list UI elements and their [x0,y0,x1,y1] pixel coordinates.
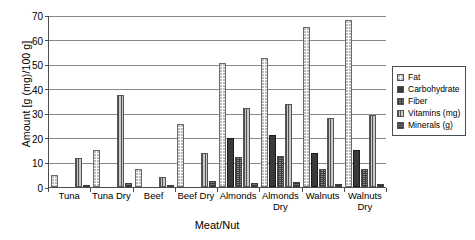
bar-min [251,183,258,187]
y-tick-label-70: 70 [32,11,43,22]
x-label-walnuts-dry: WalnutsDry [344,190,386,212]
bar-min [125,183,132,187]
plot-area: 010203040506070 [48,16,386,188]
bar-min [293,182,300,187]
plot-inner: 010203040506070 [49,16,386,187]
bar-fat [303,27,310,187]
bar-vit [201,153,208,187]
bars [218,16,260,187]
bar-vit [117,95,124,187]
legend-swatch-min [397,122,404,129]
bar-vit [75,158,82,187]
bar-fat [345,20,352,187]
legend-swatch-fat [397,74,404,81]
x-tick-mark-8 [386,188,387,192]
y-axis-title: Amount [g (mg)/100 g] [20,4,32,184]
bars [175,16,217,187]
y-tick-label-60: 60 [32,35,43,46]
bar-min [209,181,216,187]
x-label-walnuts: Walnuts [302,190,344,212]
bar-group-tuna [49,16,91,187]
bar-fiber [277,156,284,187]
bar-group-tuna-dry [91,16,133,187]
bar-fiber [235,157,242,187]
x-label-tuna: Tuna [48,190,90,212]
bar-group-walnuts [302,16,344,187]
bar-group-beef [133,16,175,187]
bar-carb [269,135,276,187]
y-tick-label-40: 40 [32,84,43,95]
x-label-almonds: Almonds [217,190,259,212]
legend-label-vit: Vitamins (mg) [408,108,460,118]
bar-vit [327,118,334,187]
legend-item-carb: Carbohydrate [397,83,460,95]
y-tick-label-30: 30 [32,109,43,120]
bar-group-beef-dry [175,16,217,187]
y-tick-label-50: 50 [32,60,43,71]
bar-carb [311,153,318,187]
legend-swatch-vit [397,110,404,117]
x-label-almonds-dry: AlmondsDry [259,190,301,212]
bars [302,16,344,187]
legend-label-fiber: Fiber [408,96,427,106]
legend-label-min: Minerals (g) [408,120,453,130]
legend-label-fat: Fat [408,72,420,82]
bar-min [335,184,342,187]
legend-item-fat: Fat [397,71,460,83]
bar-fat [51,175,58,187]
x-label-tuna-dry: Tuna Dry [90,190,132,212]
bar-min [377,184,384,187]
bar-fat [177,124,184,187]
bar-fiber [361,169,368,187]
legend-swatch-carb [397,86,404,93]
bar-groups [49,16,386,187]
bar-vit [369,115,376,187]
y-tick-label-20: 20 [32,133,43,144]
x-label-beef: Beef [133,190,175,212]
legend-item-min: Minerals (g) [397,119,460,131]
bar-chart: Amount [g (mg)/100 g] 010203040506070 Tu… [0,0,475,240]
bar-vit [243,108,250,187]
x-label-beef-dry: Beef Dry [175,190,217,212]
x-axis-title: Meat/Nut [48,219,386,231]
bar-group-walnuts-dry [344,16,386,187]
bar-carb [227,138,234,187]
legend-item-vit: Vitamins (mg) [397,107,460,119]
bar-fat [219,63,226,187]
bars [260,16,302,187]
x-axis-category-labels: TunaTuna DryBeefBeef DryAlmondsAlmondsDr… [48,190,386,212]
bar-fat [93,150,100,187]
y-tick-label-0: 0 [37,183,43,194]
bar-min [83,185,90,187]
bar-fat [261,58,268,187]
bar-group-almonds [218,16,260,187]
bar-vit [285,104,292,187]
bar-group-almonds-dry [260,16,302,187]
bar-vit [159,177,166,187]
bar-fat [135,169,142,187]
bar-fiber [319,169,326,187]
bars [133,16,175,187]
bar-min [167,185,174,187]
bars [344,16,386,187]
legend-swatch-fiber [397,98,404,105]
bars [49,16,91,187]
bars [91,16,133,187]
legend-item-fiber: Fiber [397,95,460,107]
legend-label-carb: Carbohydrate [408,84,460,94]
bar-carb [353,150,360,187]
legend: FatCarbohydrateFiberVitamins (mg)Mineral… [392,66,466,136]
y-tick-label-10: 10 [32,158,43,169]
